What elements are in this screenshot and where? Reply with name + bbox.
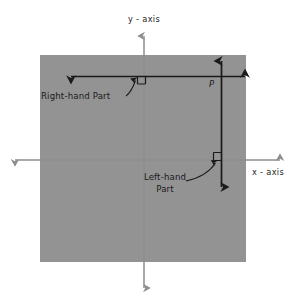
geometry-figure: y - axis x - axis P Right-hand Part Left… bbox=[0, 0, 296, 303]
left-hand-part-label-line1: Left-hand bbox=[144, 172, 186, 182]
left-hand-part-label-line2: Part bbox=[156, 184, 174, 194]
coordinate-plane-region bbox=[40, 55, 246, 262]
y-axis-label: y - axis bbox=[128, 14, 160, 24]
figure-canvas: y - axis x - axis P Right-hand Part Left… bbox=[0, 0, 296, 303]
x-axis-label: x - axis bbox=[252, 167, 284, 177]
right-hand-part-label: Right-hand Part bbox=[41, 91, 111, 101]
